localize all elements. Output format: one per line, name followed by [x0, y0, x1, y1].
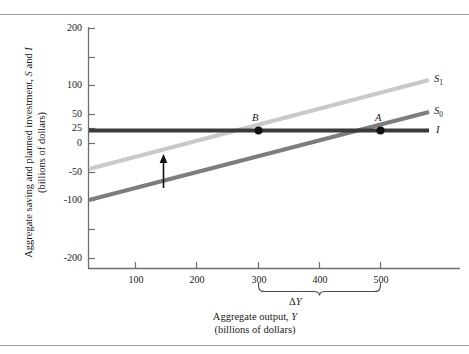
curve-label-s0: S0	[434, 105, 443, 119]
x-axis-ticks	[136, 262, 381, 268]
y-tick-label-50: 50	[38, 108, 82, 119]
y-axis-title-line-2: (billions of dollars)	[35, 33, 48, 273]
x-axis-title-line-1: Aggregate output, Y	[140, 311, 370, 324]
y-tick-label-neg200: -200	[38, 252, 82, 263]
y-tick-label-neg100: -100	[38, 194, 82, 205]
curve-label-s1-sub: 1	[439, 78, 443, 87]
point-b-marker	[255, 127, 263, 135]
x-axis-title-line-2: (billions of dollars)	[140, 324, 370, 337]
y-axis-title-symbol-i: I	[23, 47, 34, 51]
point-label-b: B	[252, 112, 258, 123]
curve-label-i: I	[436, 124, 440, 135]
point-label-a: A	[375, 112, 381, 123]
y-axis-title: Aggregate saving and planned investment,…	[23, 33, 48, 273]
figure-container: Aggregate saving and planned investment,…	[0, 0, 469, 354]
y-axis-title-line-1: Aggregate saving and planned investment,…	[23, 33, 36, 273]
x-tick-label-100: 100	[116, 274, 156, 285]
y-axis-title-text-a: Aggregate saving and planned investment,	[23, 76, 34, 257]
x-tick-label-200: 200	[177, 274, 217, 285]
x-tick-label-400: 400	[300, 274, 340, 285]
x-tick-label-300: 300	[239, 274, 279, 285]
y-axis-title-text-b: and	[23, 51, 34, 71]
delta-symbol: Δ	[289, 296, 296, 307]
chart-plot-area	[0, 0, 469, 354]
curve-label-s1: S1	[434, 73, 443, 87]
curve-label-s0-sub: 0	[439, 110, 443, 119]
x-axis-title: Aggregate output, Y (billions of dollars…	[140, 311, 370, 336]
y-tick-label-25: 25	[38, 122, 82, 133]
y-tick-label-200: 200	[38, 22, 82, 33]
x-tick-label-500: 500	[361, 274, 401, 285]
delta-variable-y: Y	[296, 296, 302, 307]
y-tick-label-0: 0	[38, 137, 82, 148]
x-axis-title-text: Aggregate output,	[213, 311, 291, 322]
y-tick-label-neg50: -50	[38, 166, 82, 177]
delta-y-label: ΔY	[289, 296, 302, 307]
point-a-marker	[377, 127, 385, 135]
x-axis-title-symbol-y: Y	[291, 311, 297, 322]
y-tick-label-100: 100	[38, 79, 82, 90]
y-axis-title-symbol-s: S	[23, 71, 34, 76]
